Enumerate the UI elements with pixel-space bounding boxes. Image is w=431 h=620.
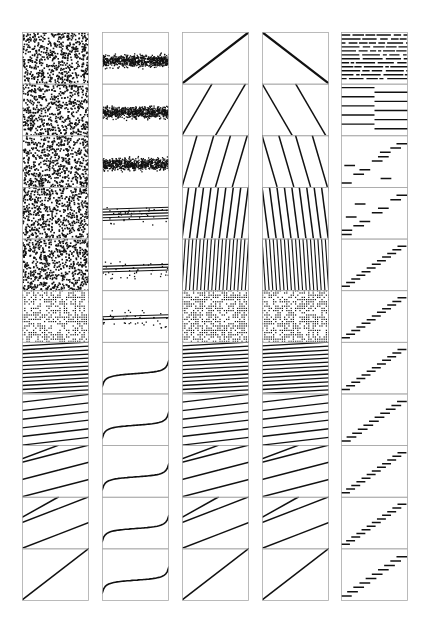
- panel: [102, 446, 169, 498]
- panel: [182, 548, 249, 600]
- column-5: [341, 33, 408, 601]
- panel: [262, 394, 329, 446]
- panel: [22, 239, 90, 292]
- panel-frame: [23, 497, 89, 549]
- panel-frame: [23, 187, 89, 239]
- panel: [182, 239, 252, 291]
- panel-frame: [103, 549, 169, 601]
- panel: [102, 33, 170, 85]
- panel-frame: [103, 497, 169, 549]
- panel: [182, 290, 249, 342]
- panel: [22, 394, 89, 446]
- panel: [22, 548, 89, 600]
- panel: [102, 291, 169, 343]
- panel-frame: [183, 84, 249, 136]
- column-1: [22, 32, 91, 600]
- panel-frame: [183, 394, 249, 446]
- panel: [341, 497, 408, 549]
- figure-grid: [0, 0, 431, 620]
- panel: [341, 446, 408, 498]
- panel: [102, 136, 170, 188]
- panel-frame: [183, 497, 249, 549]
- panel: [182, 342, 249, 394]
- panel: [22, 84, 91, 137]
- panel: [341, 342, 408, 394]
- panel: [102, 239, 170, 291]
- panel: [102, 187, 169, 239]
- panel: [182, 187, 256, 239]
- panel: [102, 549, 169, 601]
- panel-frame: [23, 394, 89, 446]
- panel: [22, 445, 89, 497]
- panel: [182, 84, 279, 136]
- panel: [262, 445, 329, 497]
- panel: [22, 290, 89, 342]
- panel: [102, 394, 169, 446]
- panel: [262, 32, 329, 84]
- panel: [341, 84, 408, 136]
- panel: [341, 239, 408, 291]
- panel: [182, 394, 249, 446]
- panel: [262, 187, 336, 239]
- panel: [341, 394, 408, 446]
- panel: [262, 135, 344, 187]
- panel: [182, 135, 264, 187]
- panel: [262, 239, 332, 291]
- panel-frame: [263, 497, 329, 549]
- panel: [182, 445, 249, 497]
- panel-frame: [183, 136, 249, 188]
- panel: [341, 33, 408, 85]
- panel-frame: [103, 394, 169, 446]
- panel: [22, 342, 89, 394]
- panel: [341, 291, 408, 343]
- panel: [262, 342, 329, 394]
- panel-frame: [263, 84, 329, 136]
- panel: [341, 136, 408, 188]
- panel: [341, 187, 408, 239]
- panel: [262, 290, 329, 342]
- panel: [262, 497, 329, 549]
- panel-frame: [103, 446, 169, 498]
- column-4: [262, 32, 359, 601]
- panel-frame: [263, 394, 329, 446]
- panel: [182, 32, 249, 84]
- panel: [182, 497, 249, 549]
- panel: [262, 84, 359, 136]
- panel: [102, 497, 169, 549]
- panel-frame: [263, 136, 329, 188]
- column-2: [102, 33, 170, 601]
- panel: [22, 32, 90, 85]
- panel: [22, 187, 90, 240]
- panel: [262, 548, 329, 600]
- panel: [102, 84, 170, 136]
- panel: [22, 497, 89, 549]
- panel: [102, 342, 169, 394]
- panel: [22, 135, 90, 188]
- panel: [341, 549, 408, 601]
- panel-frame: [103, 342, 169, 394]
